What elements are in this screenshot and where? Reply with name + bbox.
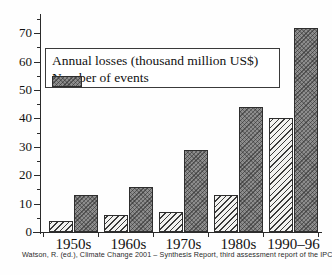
legend-item-number-of-events: Number of events [52,70,275,86]
y-tick-label: 30 [8,140,32,153]
bar-losses-1950s [49,221,73,232]
bar-losses-1980s [214,195,238,232]
y-tick-label: 40 [8,111,32,124]
bar-losses-199096 [269,118,293,232]
source-caption: Watson, R. (ed.), Climate Change 2001 – … [22,250,322,259]
legend-label-annual-losses: Annual losses (thousand million US$) [52,54,258,68]
y-tick-major [34,232,41,233]
y-tick-label: 50 [8,83,32,96]
y-tick-label: 60 [8,55,32,68]
bar-events-1950s [74,195,98,232]
gray-swatch-icon [52,76,82,87]
bar-losses-1970s [159,212,183,232]
chart-legend: Annual losses (thousand million US$) Num… [45,48,280,88]
bar-events-1980s [239,107,263,232]
x-axis-line [33,232,322,233]
chart-figure: 010203040506070 1950s1960s1970s1980s1990… [0,0,332,275]
bar-events-1970s [184,150,208,232]
bar-losses-1960s [104,215,128,232]
y-tick-label: 70 [8,26,32,39]
x-tick [318,232,319,237]
bar-events-1960s [129,187,153,232]
y-tick-label: 20 [8,168,32,181]
bar-events-199096 [294,28,318,232]
y-tick-label: 0 [8,225,32,238]
y-tick-label: 10 [8,197,32,210]
y-axis-ticks: 010203040506070 [0,0,32,275]
legend-item-annual-losses: Annual losses (thousand million US$) [52,53,275,69]
